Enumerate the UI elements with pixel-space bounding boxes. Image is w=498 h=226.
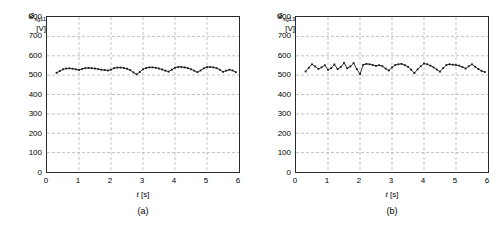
x-axis-label-a: t [s] (46, 190, 240, 199)
data-point (206, 66, 208, 68)
data-point (417, 68, 419, 70)
data-point (346, 67, 348, 69)
data-point (229, 69, 231, 71)
data-point (481, 70, 483, 72)
data-point (318, 68, 320, 70)
data-point (174, 67, 176, 69)
data-point (65, 68, 67, 70)
data-markers-a (56, 66, 237, 75)
y-tick-200: 200 (8, 130, 42, 138)
data-point (117, 67, 119, 69)
data-point (190, 68, 192, 70)
y-tick-400: 400 (8, 91, 42, 99)
data-point (72, 68, 74, 70)
gridlines-b (296, 17, 488, 172)
x-tick-4: 4 (172, 177, 176, 185)
data-point (91, 67, 93, 69)
y-tick-300: 300 (8, 110, 42, 118)
data-point (97, 68, 99, 70)
data-point (404, 64, 406, 66)
data-point (165, 70, 167, 72)
data-point (321, 66, 323, 68)
data-point (414, 72, 416, 74)
x-tick-4: 4 (421, 177, 425, 185)
data-point (193, 70, 195, 72)
plot-area-a (46, 16, 240, 173)
data-point (356, 68, 358, 70)
data-point (385, 68, 387, 70)
data-point (382, 65, 384, 67)
data-point (474, 66, 476, 68)
data-point (439, 71, 441, 73)
data-point (388, 70, 390, 72)
plot-canvas-a (47, 17, 239, 172)
x-tick-0: 0 (44, 177, 48, 185)
data-point (197, 71, 199, 73)
x-tick-0: 0 (293, 177, 297, 185)
data-point (184, 66, 186, 68)
x-tick-6: 6 (236, 177, 240, 185)
data-point (113, 67, 115, 69)
data-point (337, 68, 339, 70)
data-point (69, 67, 71, 69)
plot-area-b (295, 16, 489, 173)
y-tick-100: 100 (257, 149, 291, 157)
data-point (203, 67, 205, 69)
x-axis-label-b: t [s] (295, 190, 489, 199)
data-point (458, 65, 460, 67)
data-point (350, 66, 352, 68)
data-point (56, 72, 58, 74)
data-point (62, 68, 64, 70)
data-point (145, 67, 147, 69)
data-point (394, 64, 396, 66)
data-point (398, 63, 400, 65)
y-tick-200: 200 (257, 130, 291, 138)
data-point (334, 64, 336, 66)
data-point (423, 63, 425, 65)
data-point (168, 71, 170, 73)
data-point (222, 71, 224, 73)
y-tick-0: 0 (8, 169, 42, 177)
data-point (216, 67, 218, 69)
data-point (366, 63, 368, 65)
x-tick-2: 2 (108, 177, 112, 185)
data-point (442, 67, 444, 69)
data-point (410, 69, 412, 71)
data-point (372, 64, 374, 66)
data-point (484, 71, 486, 73)
y-tick-400: 400 (257, 91, 291, 99)
y-tick-600: 600 (257, 52, 291, 60)
data-point (436, 69, 438, 71)
data-point (120, 67, 122, 69)
data-point (426, 63, 428, 65)
data-point (94, 68, 96, 70)
data-point (353, 62, 355, 64)
data-point (340, 66, 342, 68)
x-axis-symbol: t (386, 190, 388, 199)
data-point (327, 69, 329, 71)
data-point (155, 67, 157, 69)
panel-caption-b: (b) (295, 206, 489, 216)
data-point (177, 66, 179, 68)
data-point (161, 69, 163, 71)
data-point (129, 69, 131, 71)
panel-b: Gsg13 [V] 800 700 600 500 400 300 200 10… (249, 0, 498, 226)
data-point (471, 63, 473, 65)
x-tick-1: 1 (76, 177, 80, 185)
x-tick-1: 1 (325, 177, 329, 185)
data-point (446, 64, 448, 66)
data-point (232, 70, 234, 72)
data-point (430, 65, 432, 67)
data-point (468, 65, 470, 67)
data-point (152, 66, 154, 68)
data-markers-b (305, 62, 486, 75)
data-point (478, 68, 480, 70)
x-axis-unit: [s] (141, 190, 149, 199)
x-tick-5: 5 (204, 177, 208, 185)
data-point (219, 69, 221, 71)
data-point (123, 67, 125, 69)
data-point (101, 69, 103, 71)
data-point (324, 64, 326, 66)
y-tick-600: 600 (8, 52, 42, 60)
data-point (110, 69, 112, 71)
